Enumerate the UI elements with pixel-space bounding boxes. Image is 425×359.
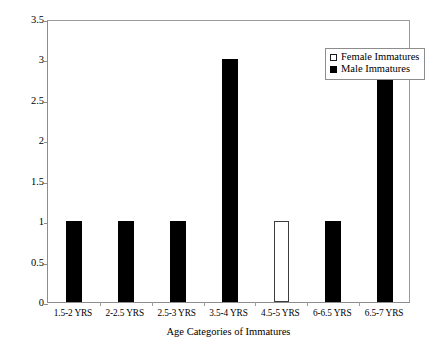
x-axis-title: Age Categories of Immatures [47, 326, 410, 337]
x-tick-label: 2.5-3 YRS [157, 308, 196, 318]
bar-chart-figure: Number of Interactions 00.511.522.533.5 … [0, 0, 425, 359]
y-tick-mark [44, 183, 48, 184]
bar-male-1-5-2-yrs [66, 221, 82, 302]
bar-male-2-5-3-yrs [170, 221, 186, 302]
plot-area: Female Immatures Male Immatures [47, 20, 410, 303]
x-tick-mark [359, 302, 360, 306]
y-tick-label: 2 [16, 136, 44, 147]
y-tick-label: 3 [16, 55, 44, 66]
x-tick-label: 6.5-7 YRS [365, 308, 404, 318]
x-tick-label: 3.5-4 YRS [209, 308, 248, 318]
x-tick-label: 2-2.5 YRS [106, 308, 145, 318]
open-square-icon [330, 54, 337, 61]
x-tick-label: 1.5-2 YRS [54, 308, 93, 318]
y-tick-label: 0.5 [16, 257, 44, 268]
x-tick-mark [255, 302, 256, 306]
x-tick-mark [307, 302, 308, 306]
bar-male-2-2-5-yrs [118, 221, 134, 302]
y-axis-tick-labels: 00.511.522.533.5 [12, 0, 44, 359]
bar-female-4-5-5-yrs [274, 221, 289, 302]
y-tick-mark [44, 304, 48, 305]
bar-male-6-5-7-yrs [377, 59, 393, 302]
x-tick-label: 6-6.5 YRS [313, 308, 352, 318]
legend-item-male-immatures: Male Immatures [330, 63, 419, 75]
x-tick-mark [100, 302, 101, 306]
legend-item-female-immatures: Female Immatures [330, 51, 419, 63]
x-tick-mark [152, 302, 153, 306]
y-tick-label: 0 [16, 298, 44, 309]
legend-label-female-immatures: Female Immatures [341, 51, 419, 63]
legend-label-male-immatures: Male Immatures [341, 63, 410, 75]
y-tick-mark [44, 21, 48, 22]
bar-male-6-6-5-yrs [325, 221, 341, 302]
x-tick-mark [204, 302, 205, 306]
y-tick-label: 2.5 [16, 96, 44, 107]
x-axis-tick-labels: 1.5-2 YRS2-2.5 YRS2.5-3 YRS3.5-4 YRS4.5-… [47, 308, 410, 322]
y-tick-label: 1 [16, 217, 44, 228]
y-tick-mark [44, 264, 48, 265]
y-tick-mark [44, 61, 48, 62]
x-tick-label: 4.5-5 YRS [261, 308, 300, 318]
chart-legend: Female Immatures Male Immatures [325, 48, 425, 80]
y-tick-mark [44, 142, 48, 143]
y-tick-label: 1.5 [16, 176, 44, 187]
y-tick-mark [44, 223, 48, 224]
figure-caption [47, 352, 387, 359]
bar-male-3-5-4-yrs [222, 59, 238, 302]
y-tick-label: 3.5 [16, 15, 44, 26]
y-tick-mark [44, 102, 48, 103]
filled-square-icon [330, 66, 337, 73]
